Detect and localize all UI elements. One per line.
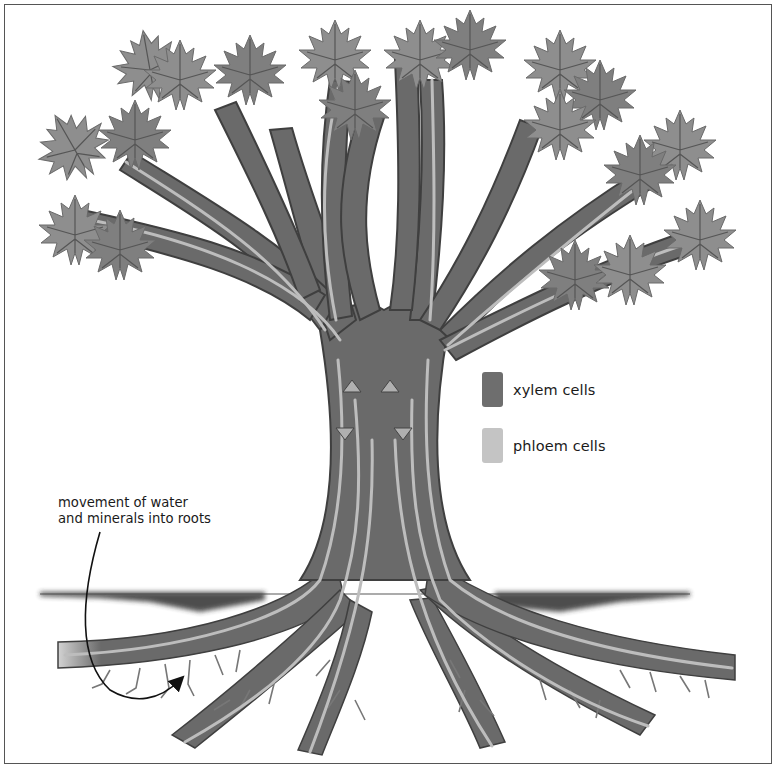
- annotation-line-1: movement of water: [58, 495, 211, 511]
- xylem-swatch: [482, 372, 503, 407]
- roots: [58, 560, 735, 755]
- legend-item-phloem: phloem cells: [482, 428, 606, 463]
- phloem-swatch: [482, 428, 503, 463]
- tree-illustration: [0, 0, 778, 770]
- legend-label-xylem: xylem cells: [513, 382, 595, 398]
- leaves: [24, 10, 736, 310]
- annotation-caption: movement of water and minerals into root…: [58, 495, 211, 527]
- annotation-line-2: and minerals into roots: [58, 511, 211, 527]
- annotation-arrow: [85, 532, 180, 699]
- legend-item-xylem: xylem cells: [482, 372, 595, 407]
- legend-label-phloem: phloem cells: [513, 438, 606, 454]
